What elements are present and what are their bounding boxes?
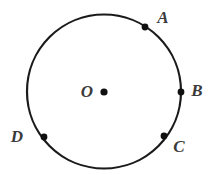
point-label-a: A [157, 9, 168, 26]
point-label-c: C [173, 138, 184, 155]
point-label-d: D [11, 128, 23, 145]
point-dot-b [178, 89, 185, 96]
circle-diagram: O A B C D [0, 0, 214, 175]
center-point-dot-o [100, 88, 107, 95]
point-label-o: O [81, 83, 93, 100]
point-label-b: B [191, 82, 202, 99]
point-dot-a [142, 24, 149, 31]
point-dot-c [161, 133, 168, 140]
point-dot-d [41, 134, 48, 141]
